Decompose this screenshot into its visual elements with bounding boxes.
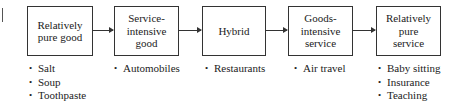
examples-list-service-intensive-good: Automobiles (114, 62, 180, 76)
example-item: Insurance (378, 76, 440, 90)
example-item: Air travel (294, 62, 345, 76)
stage-box-goods-intensive-service: Goods- intensive service (288, 6, 353, 56)
stage-label: Goods- intensive service (301, 12, 341, 50)
arrow-right-icon (266, 30, 287, 31)
example-item: Soup (29, 76, 86, 90)
example-item: Restaurants (205, 62, 265, 76)
arrow-right-icon (179, 30, 201, 31)
stage-box-pure-good: Relatively pure good (27, 6, 93, 56)
stage-label: Hybrid (218, 25, 249, 38)
example-item: Baby sitting (378, 62, 440, 76)
example-item: Toothpaste (29, 89, 86, 103)
example-item: Salt (29, 62, 86, 76)
left-edge-mark (2, 8, 3, 22)
stage-box-service-intensive-good: Service- intensive good (114, 6, 179, 56)
arrow-right-icon (353, 30, 375, 31)
stage-box-hybrid: Hybrid (202, 6, 266, 56)
examples-list-hybrid: Restaurants (205, 62, 265, 76)
stage-label: Relatively pure service (386, 12, 431, 50)
arrow-right-icon (93, 30, 113, 31)
examples-list-pure-good: Salt Soup Toothpaste (29, 62, 86, 103)
examples-list-pure-service: Baby sitting Insurance Teaching (378, 62, 440, 103)
examples-list-goods-intensive-service: Air travel (294, 62, 345, 76)
stage-label: Relatively pure good (37, 19, 82, 44)
example-item: Automobiles (114, 62, 180, 76)
example-item: Teaching (378, 89, 440, 103)
stage-box-pure-service: Relatively pure service (376, 6, 441, 56)
stage-label: Service- intensive good (127, 12, 167, 50)
